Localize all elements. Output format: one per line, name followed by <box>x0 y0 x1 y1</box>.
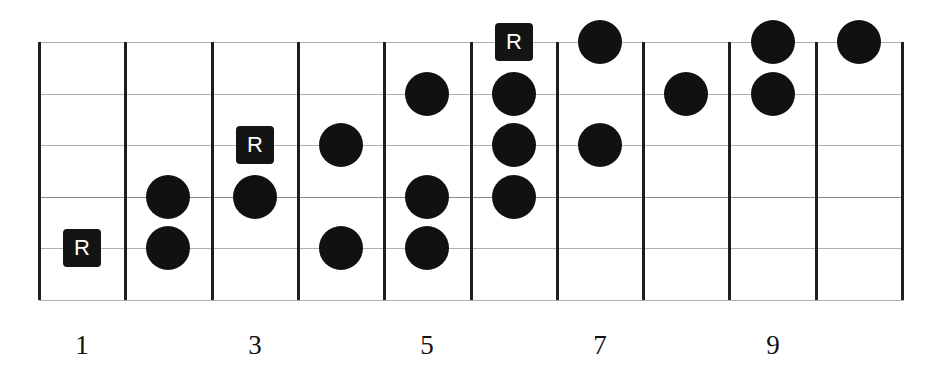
scale-note-dot <box>319 123 363 167</box>
scale-note-dot <box>492 175 536 219</box>
string-line-6 <box>39 300 904 301</box>
root-note-marker: R <box>63 229 101 267</box>
scale-note-dot <box>405 175 449 219</box>
fret-line-9 <box>815 42 818 300</box>
scale-note-dot <box>405 72 449 116</box>
fret-line-1 <box>124 42 127 300</box>
scale-note-dot <box>492 72 536 116</box>
fret-number-label: 7 <box>593 330 607 361</box>
fret-line-3 <box>297 42 300 300</box>
scale-note-dot <box>319 226 363 270</box>
fret-line-10 <box>901 42 904 300</box>
scale-note-dot <box>578 20 622 64</box>
fret-line-2 <box>211 42 214 300</box>
scale-note-dot <box>664 72 708 116</box>
fret-line-4 <box>383 42 386 300</box>
root-note-marker: R <box>495 23 533 61</box>
fret-line-0 <box>38 42 41 300</box>
fret-number-label: 9 <box>766 330 780 361</box>
scale-note-dot <box>837 20 881 64</box>
scale-note-dot <box>233 175 277 219</box>
fret-number-label: 1 <box>75 330 89 361</box>
fret-number-label: 5 <box>420 330 434 361</box>
scale-note-dot <box>751 20 795 64</box>
fret-number-label: 3 <box>248 330 262 361</box>
scale-note-dot <box>492 123 536 167</box>
fret-line-6 <box>556 42 559 300</box>
scale-note-dot <box>751 72 795 116</box>
scale-note-dot <box>578 123 622 167</box>
root-note-marker: R <box>236 126 274 164</box>
scale-note-dot <box>146 226 190 270</box>
fret-line-7 <box>642 42 645 300</box>
scale-note-dot <box>146 175 190 219</box>
scale-note-dot <box>405 226 449 270</box>
fret-line-8 <box>728 42 731 300</box>
fretboard-diagram: RRR13579 <box>0 0 940 376</box>
fret-line-5 <box>470 42 473 300</box>
